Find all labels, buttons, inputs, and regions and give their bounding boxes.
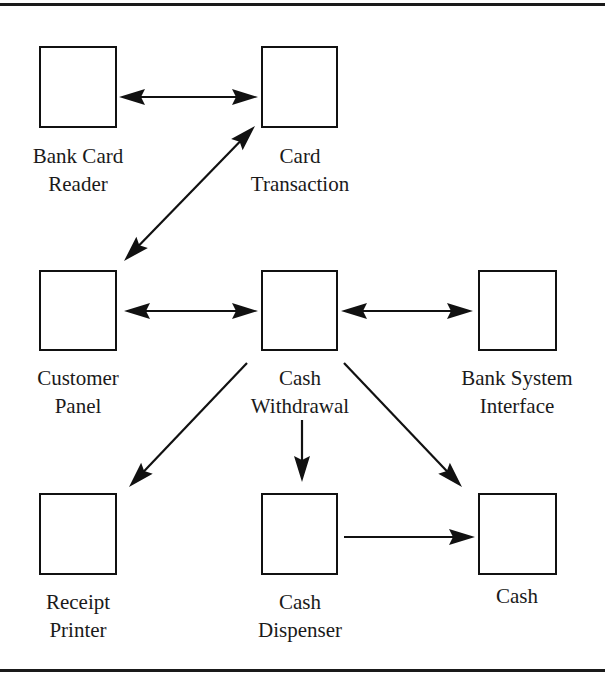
- edge-cash-withdrawal-to-receipt-printer: [140, 363, 247, 476]
- edge-customer-panel-to-card-transaction: [135, 137, 244, 250]
- edge-cash-withdrawal-to-cash: [344, 363, 451, 476]
- diagram-canvas: Bank Card Reader Card Transaction Custom…: [0, 0, 605, 682]
- arrows-layer: [0, 0, 605, 682]
